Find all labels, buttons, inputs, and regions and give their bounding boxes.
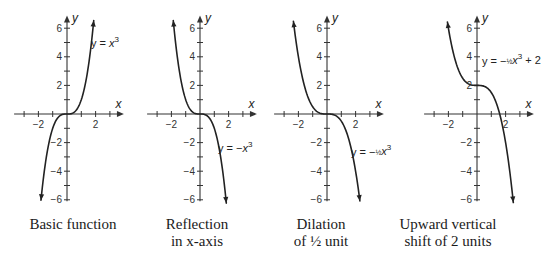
y-tick-label: 6 (316, 23, 322, 34)
cubic-curve (447, 22, 513, 203)
plot-basic: −22642−2−4−6xyy = x3 (14, 11, 124, 206)
y-tick-label: 4 (189, 51, 195, 62)
y-tick-label: −2 (311, 137, 323, 148)
y-tick-label: 2 (189, 80, 195, 91)
y-axis-label: y (331, 11, 339, 25)
y-axis-label: y (481, 11, 489, 25)
caption-upward-shift: Upward vertical shift of 2 units (378, 216, 518, 250)
x-axis-label: x (248, 97, 256, 111)
y-tick-label: −2 (51, 137, 63, 148)
y-tick-label: 6 (466, 23, 472, 34)
figure: −22642−2−4−6xyy = x3−22642−2−4−6xyy = −x… (0, 0, 556, 261)
y-tick-label: −4 (184, 166, 196, 177)
caption-basic-function: Basic function (3, 216, 143, 233)
x-axis-arrow-icon (377, 111, 384, 117)
x-tick-label: −2 (293, 119, 305, 130)
caption-line: of ½ unit (251, 233, 391, 250)
equation-label: y = −½x3 + 2 (482, 52, 541, 67)
x-axis-label: x (375, 97, 383, 111)
y-axis-arrow-icon (64, 16, 70, 23)
y-tick-label: −2 (461, 137, 473, 148)
y-tick-label: 6 (189, 23, 195, 34)
x-tick-label: −2 (166, 119, 178, 130)
y-tick-label: −6 (51, 194, 63, 205)
y-axis-label: y (71, 11, 79, 25)
y-tick-label: −2 (184, 137, 196, 148)
y-axis-arrow-icon (324, 16, 330, 23)
x-axis-label: x (525, 97, 533, 111)
plot-reflection: −22642−2−4−6xyy = −x3 (147, 11, 257, 206)
x-tick-label: 2 (93, 119, 99, 130)
equation-label: y = x3 (91, 35, 120, 49)
caption-line: Dilation (251, 216, 391, 233)
x-tick-label: 2 (353, 119, 359, 130)
y-tick-label: −6 (311, 194, 323, 205)
caption-dilation: Dilation of ½ unit (251, 216, 391, 250)
caption-line: Basic function (3, 216, 143, 233)
x-axis-arrow-icon (117, 111, 124, 117)
y-tick-label: 2 (56, 80, 62, 91)
y-tick-label: 6 (56, 23, 62, 34)
plot-shift: −22642−2−4−6xyy = −½x3 + 2 (424, 11, 541, 206)
y-axis-label: y (204, 11, 212, 25)
x-axis-arrow-icon (527, 111, 534, 117)
x-axis-arrow-icon (250, 111, 257, 117)
y-axis-arrow-icon (197, 16, 203, 23)
caption-line: Upward vertical (378, 216, 518, 233)
caption-line: shift of 2 units (378, 233, 518, 250)
y-tick-label: 2 (316, 80, 322, 91)
x-tick-label: −2 (33, 119, 45, 130)
equation-label: y = −x3 (218, 140, 253, 154)
caption-line: in x-axis (127, 233, 267, 250)
equation-label: y = −½x3 (351, 143, 392, 158)
y-tick-label: −6 (461, 194, 473, 205)
y-tick-label: 4 (316, 51, 322, 62)
y-axis-arrow-icon (474, 16, 480, 23)
y-tick-label: −6 (184, 194, 196, 205)
plot-dilation: −22642−2−4−6xyy = −½x3 (274, 11, 392, 206)
y-tick-label: 4 (56, 51, 62, 62)
caption-reflection: Reflection in x-axis (127, 216, 267, 250)
x-axis-label: x (115, 97, 123, 111)
y-tick-label: 4 (466, 51, 472, 62)
x-tick-label: 2 (226, 119, 232, 130)
y-tick-label: −4 (51, 166, 63, 177)
caption-line: Reflection (127, 216, 267, 233)
y-tick-label: −4 (461, 166, 473, 177)
x-tick-label: −2 (443, 119, 455, 130)
y-tick-label: −4 (311, 166, 323, 177)
